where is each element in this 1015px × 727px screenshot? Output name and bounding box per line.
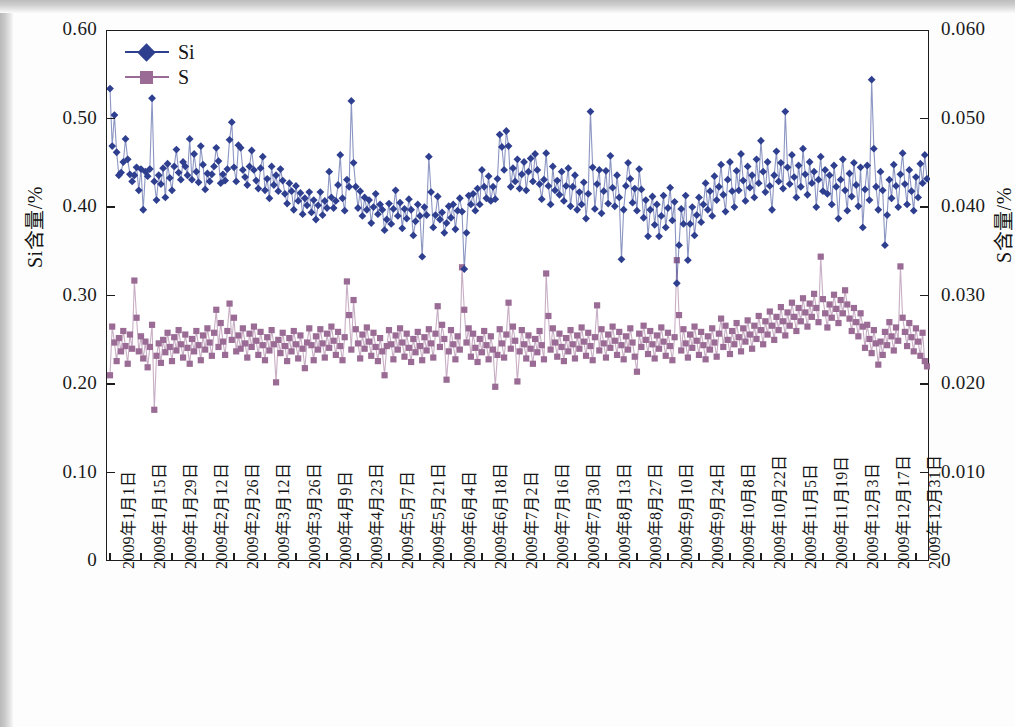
y-axis-left-tick-label: 0.10	[13, 461, 97, 483]
legend-entry-si: Si	[125, 39, 195, 64]
x-axis-tickmark	[605, 553, 607, 561]
x-axis-tickmark	[760, 553, 762, 561]
y-axis-right-tick-label: 0.050	[941, 107, 985, 129]
legend-label-s: S	[178, 67, 189, 87]
legend-entry-s: S	[125, 64, 195, 89]
y-axis-right-tick-label: 0.020	[941, 372, 985, 394]
x-axis-tickmark	[791, 553, 793, 561]
x-axis-tick-label: 2009年3月26日	[301, 463, 325, 569]
x-axis-tickmark	[698, 553, 700, 561]
y-axis-left-tickmark	[106, 206, 115, 208]
x-axis-tick-label: 2009年8月13日	[611, 463, 635, 569]
x-axis-tick-label: 2009年3月12日	[270, 463, 294, 569]
x-axis-tickmark	[512, 553, 514, 561]
scanned-page: Si含量/% S含量/% Si S	[13, 13, 1015, 727]
x-axis-tickmark	[357, 553, 359, 561]
y-axis-left-tickmark	[106, 118, 115, 120]
x-axis-tick-label: 2009年9月24日	[704, 463, 728, 569]
x-axis-tick-label: 2009年12月3日	[859, 463, 883, 569]
x-axis-tick-label: 2009年2月26日	[239, 463, 263, 569]
x-axis-tick-label: 2009年12月31日	[921, 455, 945, 569]
y-axis-left-tick-label: 0.50	[13, 107, 97, 129]
y-axis-right-tickmark	[920, 206, 929, 208]
x-axis-tickmark	[636, 553, 638, 561]
x-axis-tickmark	[543, 553, 545, 561]
x-axis-tickmark	[140, 553, 142, 561]
y-axis-left-tick-label: 0.60	[13, 18, 97, 40]
y-axis-right-tickmark	[920, 118, 929, 120]
chart-legend: Si S	[125, 39, 195, 89]
x-axis-tick-label: 2009年11月5日	[797, 464, 821, 569]
x-axis-tickmark	[326, 553, 328, 561]
x-axis-tick-label: 2009年10月22日	[766, 455, 790, 569]
scan-edge-left	[0, 0, 13, 727]
x-axis-tick-label: 2009年7月2日	[518, 471, 542, 569]
x-axis-tick-label: 2009年4月23日	[363, 463, 387, 569]
legend-label-si: Si	[178, 42, 195, 62]
x-axis-tickmark	[884, 553, 886, 561]
x-axis-tickmark	[853, 553, 855, 561]
chart-figure: Si含量/% S含量/% Si S	[13, 13, 1015, 727]
x-axis-tickmark	[729, 553, 731, 561]
x-axis-tickmark	[574, 553, 576, 561]
x-axis-tickmark	[295, 553, 297, 561]
y-axis-right-tickmark	[920, 295, 929, 297]
y-axis-right-tickmark	[920, 383, 929, 385]
x-axis-tick-label: 2009年4月9日	[332, 471, 356, 569]
legend-swatch-s	[125, 69, 169, 85]
x-axis-tick-label: 2009年7月30日	[580, 463, 604, 569]
x-axis-tick-label: 2009年1月29日	[177, 463, 201, 569]
x-axis-tickmark	[915, 553, 917, 561]
x-axis-tick-label: 2009年12月17日	[890, 455, 914, 569]
x-axis-tick-label: 2009年6月4日	[456, 471, 480, 569]
x-axis-tick-label: 2009年1月1日	[115, 471, 139, 569]
y-axis-right-tick-label: 0.040	[941, 195, 985, 217]
x-axis-tick-label: 2009年7月16日	[549, 463, 573, 569]
x-axis-tick-label: 2009年5月21日	[425, 463, 449, 569]
y-axis-left-tick-label: 0.40	[13, 195, 97, 217]
x-axis-tick-label: 2009年8月27日	[642, 463, 666, 569]
x-axis-tickmark	[171, 553, 173, 561]
x-axis-tickmark	[667, 553, 669, 561]
x-axis-tick-label: 2009年6月18日	[487, 463, 511, 569]
x-axis-tickmark	[264, 553, 266, 561]
y-axis-right-tick-label: 0.010	[941, 461, 985, 483]
x-axis-tickmark	[202, 553, 204, 561]
x-axis-tick-label: 2009年1月15日	[146, 463, 170, 569]
y-axis-right-tick-label: 0.060	[941, 18, 985, 40]
y-axis-left-tickmark	[106, 472, 115, 474]
x-axis-tickmark	[481, 553, 483, 561]
y-axis-left-tick-label: 0	[13, 549, 97, 571]
x-axis-tickmark	[388, 553, 390, 561]
y-axis-left-tick-label: 0.20	[13, 372, 97, 394]
y-axis-right-tick-label: 0.030	[941, 284, 985, 306]
diamond-marker-icon	[137, 43, 155, 61]
y-axis-right-title: S含量/%	[988, 187, 1015, 263]
x-axis-tickmark	[109, 553, 111, 561]
x-axis-tickmark	[822, 553, 824, 561]
x-axis-tickmark	[233, 553, 235, 561]
x-axis-tickmark	[450, 553, 452, 561]
x-axis-tick-label: 2009年11月19日	[828, 455, 852, 569]
square-marker-icon	[140, 71, 153, 84]
x-axis-tick-label: 2009年10月8日	[735, 463, 759, 569]
scan-edge-top	[0, 0, 1015, 13]
x-axis-tick-label: 2009年2月12日	[208, 463, 232, 569]
y-axis-left-tick-label: 0.30	[13, 284, 97, 306]
x-axis-tickmark	[419, 553, 421, 561]
y-axis-left-tickmark	[106, 295, 115, 297]
x-axis-tick-label: 2009年5月7日	[394, 471, 418, 569]
x-axis-tick-label: 2009年9月10日	[673, 463, 697, 569]
legend-swatch-si	[125, 44, 169, 60]
y-axis-left-tickmark	[106, 383, 115, 385]
